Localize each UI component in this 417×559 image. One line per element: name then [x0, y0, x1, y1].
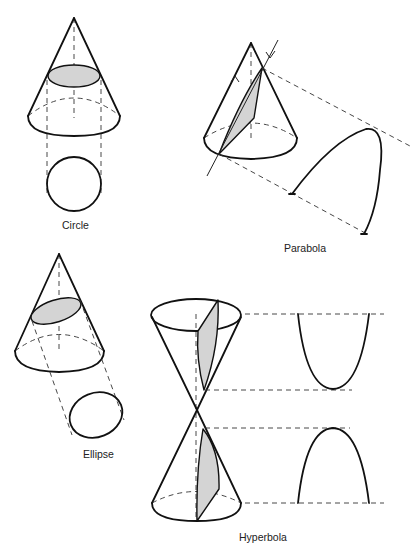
ellipse-label: Ellipse	[83, 448, 114, 460]
circle-label: Circle	[62, 219, 89, 231]
parabola-label: Parabola	[284, 242, 326, 254]
parabola-panel	[204, 40, 410, 234]
ellipse-panel	[15, 254, 129, 446]
hyperbola-lower-side-left	[152, 410, 197, 503]
hyperbola-panel	[151, 299, 384, 521]
circle-curve	[47, 157, 101, 211]
hyperbola-upper-cross-section	[198, 300, 219, 390]
hyperbola-lower-branch	[298, 428, 369, 503]
parabola-cone-base-back	[204, 123, 297, 138]
hyperbola-label: Hyperbola	[239, 531, 287, 543]
circle-cross-section	[48, 65, 100, 87]
ellipse-cross-section	[28, 293, 84, 330]
ellipse-cone-base-back	[15, 335, 104, 352]
hyperbola-lower-cross-section	[197, 429, 219, 521]
ellipse-curve	[63, 384, 130, 445]
parabola-projection-top	[262, 68, 410, 146]
hyperbola-upper-branch	[298, 314, 369, 389]
circle-cone-base-front	[28, 116, 120, 136]
conic-sections-diagram	[0, 0, 417, 559]
circle-panel	[28, 18, 120, 211]
ellipse-cone-base-front	[15, 351, 104, 372]
parabola-curve	[292, 129, 381, 234]
ellipse-projection-left	[32, 321, 72, 435]
ellipse-projection-right	[80, 300, 124, 420]
